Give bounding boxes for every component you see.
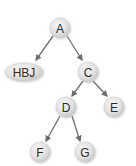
tree-diagram: AHBJCDEFG	[0, 0, 136, 166]
edge-a-to-hbj-arrow-icon	[36, 36, 53, 60]
nodes-layer: AHBJCDEFG	[5, 18, 124, 162]
edge-a-to-c-arrow-icon	[67, 36, 82, 60]
tree-node-f: F	[30, 142, 50, 162]
node-label: A	[56, 22, 64, 36]
tree-node-g: G	[75, 142, 95, 162]
node-label: C	[84, 66, 93, 80]
edge-c-to-d-arrow-icon	[72, 81, 83, 96]
tree-node-a: A	[50, 18, 70, 38]
node-label: E	[110, 101, 118, 115]
tree-node-e: E	[104, 97, 124, 117]
node-label: D	[62, 101, 71, 115]
tree-node-hbj: HBJ	[5, 63, 43, 81]
edges-layer	[36, 36, 107, 141]
tree-node-c: C	[78, 62, 98, 82]
node-label: G	[80, 146, 89, 160]
edge-c-to-e-arrow-icon	[93, 81, 107, 96]
edge-d-to-g-arrow-icon	[72, 116, 80, 141]
tree-node-d: D	[56, 97, 76, 117]
node-label: F	[36, 146, 43, 160]
edge-d-to-f-arrow-icon	[46, 116, 60, 141]
node-label: HBJ	[13, 66, 36, 80]
